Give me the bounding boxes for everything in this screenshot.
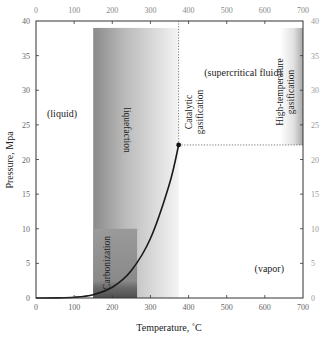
right-y-tick-label: 30 [311, 86, 319, 95]
top-x-tick-label: 700 [297, 6, 309, 15]
label-vapor: (vapor) [255, 263, 284, 275]
y-tick-label: 40 [22, 17, 30, 26]
svg-text:gasification: gasification [195, 90, 205, 135]
top-x-tick-label: 300 [144, 6, 156, 15]
label-catalytic-gasification: Catalytic gasification [184, 90, 205, 135]
svg-text:High-temperature: High-temperature [275, 58, 285, 126]
right-y-tick-label: 40 [311, 17, 319, 26]
right-y-tick-label: 15 [311, 190, 319, 199]
x-tick-label: 600 [259, 303, 271, 312]
right-y-tick-label: 5 [311, 259, 315, 268]
y-tick-label: 35 [22, 52, 30, 61]
y-tick-label: 5 [26, 259, 30, 268]
x-tick-label: 400 [183, 303, 195, 312]
svg-text:Catalytic: Catalytic [184, 95, 194, 129]
right-y-tick-label: 0 [311, 294, 315, 303]
label-carbonization: Carbonization [102, 236, 112, 290]
y-tick-label: 10 [22, 225, 30, 234]
region-carbonization [93, 229, 137, 298]
top-x-tick-label: 0 [34, 6, 38, 15]
top-x-tick-label: 600 [259, 6, 271, 15]
label-supercritical: (supercritical fluid) [204, 67, 281, 79]
y-axis-title: Pressure, Mpa [4, 131, 15, 189]
phase-diagram-chart: 0010010020020030030040040050050060060070… [0, 0, 328, 339]
svg-text:gasification: gasification [286, 70, 296, 115]
right-y-tick-label: 25 [311, 121, 319, 130]
right-y-tick-label: 10 [311, 225, 319, 234]
x-tick-label: 500 [221, 303, 233, 312]
y-tick-label: 20 [22, 156, 30, 165]
x-tick-label: 200 [106, 303, 118, 312]
x-tick-label: 0 [34, 303, 38, 312]
label-liquid: (liquid) [47, 108, 77, 120]
y-tick-label: 0 [26, 294, 30, 303]
right-y-tick-label: 20 [311, 156, 319, 165]
top-x-tick-label: 200 [106, 6, 118, 15]
right-y-tick-label: 35 [311, 52, 319, 61]
x-tick-label: 700 [297, 303, 309, 312]
x-tick-label: 100 [68, 303, 80, 312]
y-tick-label: 30 [22, 86, 30, 95]
y-tick-label: 15 [22, 190, 30, 199]
x-tick-label: 300 [144, 303, 156, 312]
x-axis-title: Temperature, ˚C [136, 322, 202, 333]
y-tick-label: 25 [22, 121, 30, 130]
critical-point-marker [176, 143, 181, 148]
top-x-tick-label: 400 [183, 6, 195, 15]
label-liquefaction: liquefaction [122, 107, 132, 153]
top-x-tick-label: 100 [68, 6, 80, 15]
top-x-tick-label: 500 [221, 6, 233, 15]
